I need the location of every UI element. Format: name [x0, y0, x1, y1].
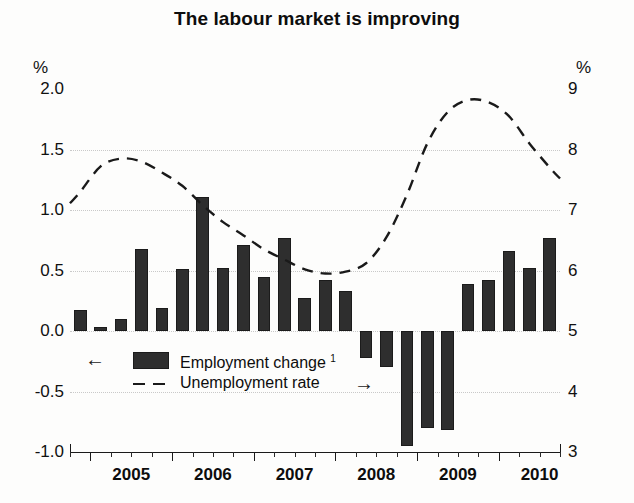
right-axis-tick-label: 4 — [568, 383, 608, 400]
x-axis-minor-tick — [70, 452, 71, 457]
chart-container: The labour market is improving % % 2.01.… — [0, 0, 634, 503]
right-axis-tick-label: 3 — [568, 443, 608, 460]
x-axis-minor-tick — [193, 452, 194, 457]
x-axis-minor-tick — [458, 452, 459, 457]
x-axis-label: 2010 — [500, 465, 580, 485]
x-axis-minor-tick — [356, 452, 357, 457]
legend-item-unemployment-rate: Unemployment rate → — [85, 373, 415, 395]
x-axis-minor-tick — [274, 452, 275, 457]
x-axis-major-tick — [417, 452, 418, 461]
legend-item-employment-change: ← Employment change 1 — [85, 349, 415, 371]
left-axis-tick-label: -1.0 — [8, 443, 64, 460]
legend-label-unemployment-rate: Unemployment rate — [180, 373, 320, 393]
left-arrow-icon: ← — [85, 349, 125, 369]
right-axis-tick-label: 7 — [568, 201, 608, 218]
x-axis-major-tick — [172, 452, 173, 461]
x-axis-major-tick — [335, 452, 336, 461]
left-axis-tick-label: 1.0 — [8, 201, 64, 218]
x-axis-minor-tick — [397, 452, 398, 457]
left-axis-tick-label: -0.5 — [8, 383, 64, 400]
right-arrow-icon: → — [354, 373, 394, 393]
x-axis-minor-tick — [213, 452, 214, 457]
x-axis-minor-tick — [376, 452, 377, 457]
x-axis-label: 2006 — [173, 465, 253, 485]
left-axis-unit: % — [33, 58, 48, 78]
chart-title: The labour market is improving — [0, 8, 634, 30]
x-axis-minor-tick — [438, 452, 439, 457]
x-axis-label: 2007 — [255, 465, 335, 485]
x-axis-minor-tick — [295, 452, 296, 457]
x-axis-minor-tick — [315, 452, 316, 457]
legend-swatch-bar — [133, 352, 169, 369]
x-axis-minor-tick — [233, 452, 234, 457]
left-axis-tick-label: 1.5 — [8, 141, 64, 158]
left-axis-tick-label: 0.5 — [8, 262, 64, 279]
x-axis-minor-tick — [478, 452, 479, 457]
right-axis-unit: % — [576, 58, 591, 78]
x-axis-minor-tick — [519, 452, 520, 457]
x-axis-minor-tick — [540, 452, 541, 457]
x-axis-minor-tick — [111, 452, 112, 457]
legend-label-text: Employment change — [180, 354, 326, 371]
x-axis-label: 2005 — [91, 465, 171, 485]
right-axis-tick-label: 6 — [568, 262, 608, 279]
right-axis-tick-label: 9 — [568, 80, 608, 97]
right-axis-tick-label: 8 — [568, 141, 608, 158]
x-axis-label: 2009 — [418, 465, 498, 485]
left-axis-tick-label: 0.0 — [8, 322, 64, 339]
x-axis-major-tick — [254, 452, 255, 461]
x-axis-minor-tick — [131, 452, 132, 457]
legend-footnote-marker: 1 — [330, 353, 336, 364]
left-axis-tick-label: 2.0 — [8, 80, 64, 97]
x-axis-major-tick — [499, 452, 500, 461]
legend-label-employment-change: Employment change 1 — [180, 349, 336, 373]
x-axis-label: 2008 — [336, 465, 416, 485]
x-axis-minor-tick — [152, 452, 153, 457]
x-axis-major-tick — [90, 452, 91, 461]
x-axis-minor-tick — [560, 452, 561, 457]
right-axis-tick-label: 5 — [568, 322, 608, 339]
chart-legend: ← Employment change 1 Unemployment rate … — [85, 349, 415, 399]
